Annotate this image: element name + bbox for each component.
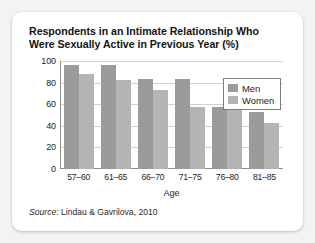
chart-title-line-2: Were Sexually Active in Previous Year (%… — [29, 38, 239, 50]
source-value: Lindau & Gavrilova, 2010 — [61, 207, 158, 217]
bar-group — [175, 61, 205, 169]
bar-men-71–75 — [175, 79, 190, 169]
chart-title-line-1: Respondents in an Intimate Relationship … — [29, 25, 259, 37]
y-axis-tick-label: 60 — [30, 99, 56, 109]
bar-men-66–70 — [138, 79, 153, 169]
source-label: Source — [29, 207, 56, 217]
bar-men-57–60 — [64, 65, 79, 169]
legend-swatch-women-icon — [228, 96, 238, 104]
y-axis-tick-label: 100 — [30, 56, 56, 66]
chart-title: Respondents in an Intimate Relationship … — [29, 25, 279, 52]
y-axis-tick-label: 80 — [30, 78, 56, 88]
bar-men-76–80 — [212, 107, 227, 169]
bar-group — [138, 61, 168, 169]
y-axis-tick-labels: 020406080100 — [26, 61, 56, 169]
page-background: Respondents in an Intimate Relationship … — [0, 0, 315, 243]
bar-women-57–60 — [79, 74, 94, 169]
bar-women-81–85 — [264, 123, 279, 169]
x-axis-tick-label: 81–85 — [241, 172, 287, 182]
bar-women-76–80 — [227, 106, 242, 169]
bar-group — [101, 61, 131, 169]
bar-men-61–65 — [101, 65, 116, 169]
chart-card: Respondents in an Intimate Relationship … — [12, 12, 303, 231]
y-axis-tick-label: 20 — [30, 142, 56, 152]
y-axis-tick-label: 40 — [30, 121, 56, 131]
legend-label-men: Men — [242, 83, 260, 94]
bar-men-81–85 — [249, 112, 264, 169]
chart-legend: Men Women — [223, 78, 281, 110]
bar-group — [64, 61, 94, 169]
plot-area: Age Men Women 57–6061–6566–7071–7576–808… — [60, 61, 283, 169]
legend-item-women: Women — [228, 94, 274, 106]
x-axis-title: Age — [60, 188, 283, 198]
source-note: Source: Lindau & Gavrilova, 2010 — [29, 207, 158, 217]
bar-women-71–75 — [190, 107, 205, 169]
bar-women-61–65 — [116, 80, 131, 169]
legend-swatch-men-icon — [228, 84, 238, 92]
legend-label-women: Women — [242, 95, 274, 106]
y-axis-tick-label: 0 — [30, 164, 56, 174]
legend-item-men: Men — [228, 82, 274, 94]
bar-women-66–70 — [153, 90, 168, 169]
